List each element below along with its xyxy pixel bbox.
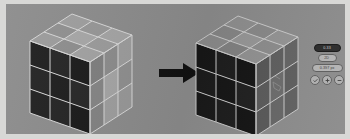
check-icon[interactable]: [310, 75, 320, 85]
value-field[interactable]: 0.397 px: [312, 64, 343, 72]
cube-after-graphic: [196, 12, 318, 130]
add-icon[interactable]: [322, 75, 332, 85]
figure-container: 0.33 2D 0.397 px: [0, 0, 350, 139]
cube-before[interactable]: [30, 10, 152, 128]
icon-button-row: [310, 75, 344, 85]
cube-before-graphic: [30, 10, 152, 128]
figure-canvas: 0.33 2D 0.397 px: [6, 4, 345, 134]
value-field-label: 0.397 px: [320, 66, 335, 70]
view-toggle-label: 2D: [325, 56, 330, 60]
viewer-controls: 0.33 2D 0.397 px: [311, 44, 343, 85]
status-badge-label: 0.33: [323, 46, 331, 50]
cube-after[interactable]: [196, 12, 318, 130]
status-badge: 0.33: [314, 44, 341, 52]
transformation-arrow: [159, 62, 199, 84]
minus-glyph: [337, 78, 342, 83]
check-glyph: [313, 78, 318, 83]
plus-glyph: [325, 78, 330, 83]
view-toggle[interactable]: 2D: [318, 54, 337, 62]
remove-icon[interactable]: [334, 75, 344, 85]
arrow-icon: [159, 62, 199, 84]
